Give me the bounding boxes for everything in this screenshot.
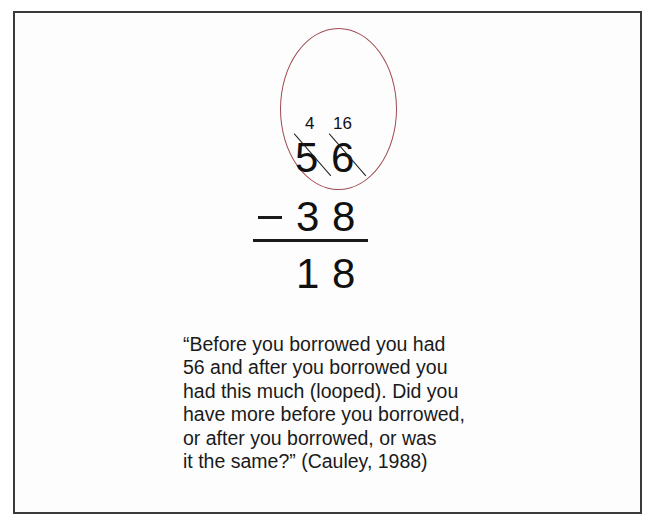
quote-line: have more before you borrowed,	[183, 403, 503, 426]
difference-tens-digit: 1	[296, 253, 319, 295]
borrow-mark-tens: 4	[305, 115, 314, 132]
quote-line: “Before you borrowed you had	[183, 333, 503, 356]
quote-line: or after you borrowed, or was	[183, 427, 503, 450]
subtrahend-tens-digit: 3	[296, 196, 319, 238]
borrow-mark-ones: 16	[333, 115, 352, 132]
caption-quote: “Before you borrowed you had 56 and afte…	[183, 333, 503, 473]
minus-sign	[258, 216, 282, 219]
quote-line: 56 and after you borrowed you	[183, 356, 503, 379]
quote-line: had this much (looped). Did you	[183, 380, 503, 403]
quote-line: it the same?” (Cauley, 1988)	[183, 450, 503, 473]
difference-ones-digit: 8	[332, 253, 355, 295]
sum-rule	[253, 239, 368, 242]
subtrahend-ones-digit: 8	[332, 196, 355, 238]
